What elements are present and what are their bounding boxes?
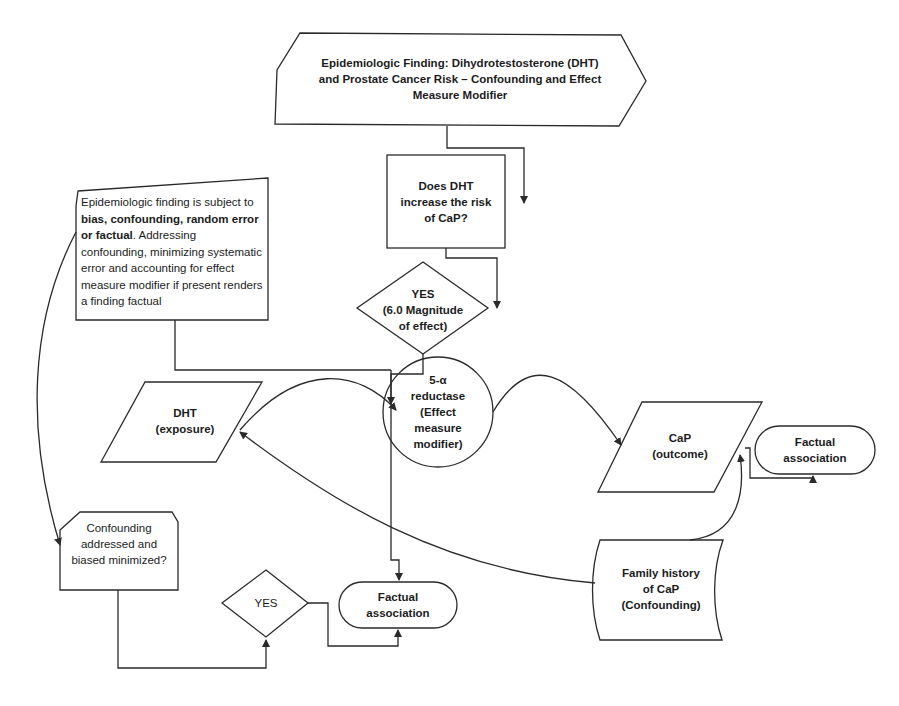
factual-right-line-2: association: [758, 450, 872, 466]
connector-confounder-outcome: [690, 455, 742, 540]
connector-exposure-modifier: [240, 379, 396, 430]
note-pre: Epidemiologic finding is subject to: [81, 196, 254, 208]
confounding-check-text: Confounding addressed and biased minimiz…: [60, 520, 178, 568]
outcome-line-2: (outcome): [630, 446, 730, 462]
title-line-3: Measure Modifier: [280, 87, 640, 103]
confounder-text: Family history of CaP (Confounding): [600, 565, 722, 613]
modifier-line-5: modifier): [388, 436, 488, 452]
question-text: Does DHT increase the risk of CaP?: [389, 178, 503, 226]
title-text: Epidemiologic Finding: Dihydrotestostero…: [280, 55, 640, 103]
decision-yes-bottom-text: YES: [236, 595, 296, 611]
decision-yes-line-2: (6.0 Magnitude: [368, 302, 478, 318]
modifier-line-2: reductase: [388, 388, 488, 404]
connector-note-check: [37, 232, 76, 545]
outcome-line-1: CaP: [630, 430, 730, 446]
question-line-3: of CaP?: [389, 210, 503, 226]
title-line-1: Epidemiologic Finding: Dihydrotestostero…: [280, 55, 640, 71]
confounding-check-line-3: biased minimized?: [60, 552, 178, 568]
modifier-line-3: (Effect: [388, 404, 488, 420]
decision-yes-text: YES (6.0 Magnitude of effect): [368, 286, 478, 334]
exposure-line-2: (exposure): [130, 421, 240, 437]
question-line-1: Does DHT: [389, 178, 503, 194]
outcome-text: CaP (outcome): [630, 430, 730, 462]
title-line-2: and Prostate Cancer Risk – Confounding a…: [280, 71, 640, 87]
exposure-text: DHT (exposure): [130, 405, 240, 437]
factual-bottom-text: Factual association: [341, 589, 455, 621]
modifier-text: 5-α reductase (Effect measure modifier): [388, 372, 488, 452]
exposure-line-1: DHT: [130, 405, 240, 421]
confounding-check-line-1: Confounding: [60, 520, 178, 536]
question-line-2: increase the risk: [389, 194, 503, 210]
connector-modifier-outcome: [493, 375, 621, 445]
decision-yes-line-1: YES: [368, 286, 478, 302]
decision-yes-bottom-label: YES: [236, 595, 296, 611]
confounder-line-3: (Confounding): [600, 597, 722, 613]
factual-bottom-line-1: Factual: [341, 589, 455, 605]
connector-confounder-exposure: [240, 432, 595, 583]
note-text: Epidemiologic finding is subject to bias…: [81, 194, 265, 310]
factual-right-text: Factual association: [758, 434, 872, 466]
connector-note-down: [175, 320, 391, 370]
factual-right-line-1: Factual: [758, 434, 872, 450]
factual-bottom-line-2: association: [341, 605, 455, 621]
confounder-line-1: Family history: [600, 565, 722, 581]
modifier-line-1: 5-α: [388, 372, 488, 388]
decision-yes-line-3: of effect): [368, 318, 478, 334]
modifier-line-4: measure: [388, 420, 488, 436]
confounding-check-line-2: addressed and: [60, 536, 178, 552]
confounder-line-2: of CaP: [600, 581, 722, 597]
